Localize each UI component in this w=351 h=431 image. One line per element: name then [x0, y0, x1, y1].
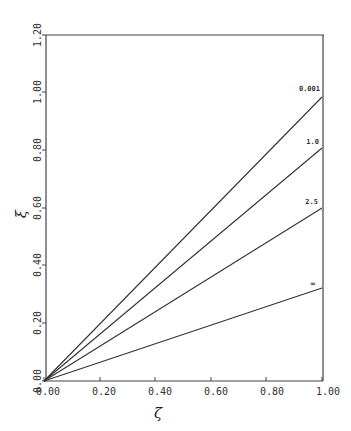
series-lines [44, 97, 322, 381]
chart: 0.00 0.20 0.40 0.60 0.80 1.00 1.20 0.00 … [0, 0, 351, 431]
x-tick-label: 1.00 [316, 386, 340, 397]
series-labels: 0.001 1.0 2.5 ∞ [299, 85, 320, 288]
y-tick-label: 0.80 [32, 138, 43, 162]
x-tick-label: 0.00 [36, 386, 60, 397]
series-line-0.001 [44, 97, 322, 381]
y-tick-label: 0.40 [32, 253, 43, 277]
x-axis-title: ζ [154, 404, 163, 422]
y-tick-label: 1.00 [32, 80, 43, 104]
y-tick-labels: 0.00 0.20 0.40 0.60 0.80 1.00 1.20 [32, 23, 43, 393]
y-axis-title: ξ [12, 209, 30, 218]
x-tick-label: 0.60 [204, 386, 228, 397]
series-label-1.0: 1.0 [306, 138, 319, 146]
x-tick-label: 0.80 [260, 386, 284, 397]
y-tick-label: 0.60 [32, 196, 43, 220]
y-tick-label: 1.20 [32, 23, 43, 47]
y-tick-label: 0.20 [32, 311, 43, 335]
plot-frame [44, 35, 324, 381]
x-tick-label: 0.40 [148, 386, 172, 397]
series-line-1.0 [44, 148, 322, 381]
x-tick-label: 0.20 [92, 386, 116, 397]
series-line-infinity [44, 288, 322, 381]
series-label-2.5: 2.5 [305, 198, 318, 206]
series-label-infinity: ∞ [311, 280, 316, 288]
series-label-0.001: 0.001 [299, 85, 320, 93]
series-line-2.5 [44, 208, 322, 381]
x-tick-labels: 0.00 0.20 0.40 0.60 0.80 1.00 [36, 386, 340, 397]
